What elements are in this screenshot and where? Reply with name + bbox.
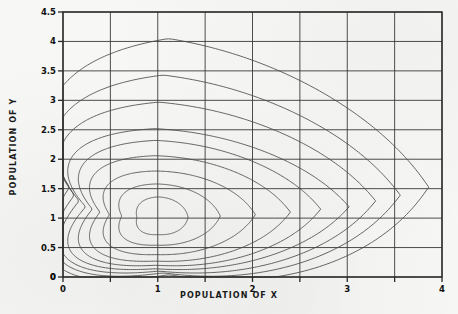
orbit-curve-4 bbox=[89, 156, 290, 262]
orbit-curve-3 bbox=[103, 171, 255, 255]
orbit-curve-8 bbox=[63, 75, 400, 276]
y-tick-label: 2 bbox=[22, 154, 56, 164]
y-tick-label: 1.5 bbox=[22, 184, 56, 194]
plot-canvas bbox=[0, 0, 458, 314]
chart-figure: 00.511.522.533.544.50 01234 POPULATION O… bbox=[0, 0, 458, 314]
origin-label: 0 bbox=[22, 272, 56, 282]
y-tick-label: 3 bbox=[22, 95, 56, 105]
y-tick-label: 4 bbox=[22, 36, 56, 46]
y-tick-label: 2.5 bbox=[22, 125, 56, 135]
y-tick-label: 1 bbox=[22, 213, 56, 223]
orbit-curve-1 bbox=[136, 197, 188, 235]
y-tick-label: 0.5 bbox=[22, 243, 56, 253]
y-tick-label: 4.5 bbox=[22, 7, 56, 17]
axis-ticks bbox=[58, 12, 442, 282]
orbit-curves bbox=[63, 39, 429, 277]
y-axis-title: POPULATION OF Y bbox=[9, 82, 18, 212]
y-tick-label: 3.5 bbox=[22, 66, 56, 76]
x-axis-title: POPULATION OF X bbox=[0, 291, 458, 300]
orbit-curve-9 bbox=[63, 39, 429, 277]
